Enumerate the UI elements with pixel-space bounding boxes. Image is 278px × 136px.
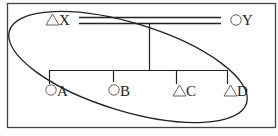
circle-icon (231, 15, 241, 25)
person-d: D (224, 83, 248, 99)
grouping-ellipse (0, 0, 259, 136)
label-b: B (120, 83, 130, 99)
triangle-icon (173, 85, 186, 96)
circle-icon (109, 85, 119, 95)
person-y: Y (231, 12, 253, 28)
person-x: X (46, 12, 70, 28)
label-c: C (186, 83, 196, 99)
person-c: C (173, 83, 196, 99)
triangle-icon (224, 85, 237, 96)
triangle-icon (46, 14, 59, 25)
pedigree-diagram: X Y A B C D (0, 0, 278, 136)
label-y: Y (242, 12, 253, 28)
circle-icon (46, 85, 56, 95)
label-x: X (59, 12, 70, 28)
person-b: B (109, 83, 130, 99)
